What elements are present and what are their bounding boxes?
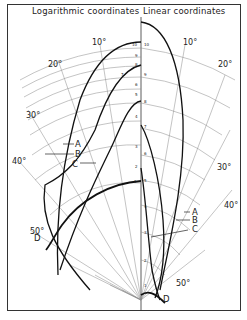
svg-text:D: D <box>163 294 170 304</box>
svg-text:30°: 30° <box>217 163 231 172</box>
svg-text:4: 4 <box>144 204 147 209</box>
curve-D-log <box>46 181 141 250</box>
svg-text:20°: 20° <box>48 60 62 69</box>
svg-text:C: C <box>72 159 78 169</box>
svg-text:40°: 40° <box>12 157 26 166</box>
svg-text:B: B <box>75 149 81 159</box>
svg-text:D: D <box>34 233 41 243</box>
svg-text:A: A <box>75 139 81 149</box>
svg-text:7: 7 <box>144 124 147 129</box>
svg-text:10: 10 <box>132 42 138 47</box>
svg-text:3: 3 <box>144 230 147 235</box>
svg-text:50°: 50° <box>176 279 190 288</box>
log-curves <box>44 42 141 290</box>
svg-text:10: 10 <box>144 42 150 47</box>
svg-text:2: 2 <box>135 164 138 169</box>
svg-text:40°: 40° <box>224 201 238 210</box>
svg-text:8: 8 <box>144 99 147 104</box>
svg-text:30°: 30° <box>26 111 40 120</box>
axis-ticks: 10 9 8 7 6 5 4 3 2 1 10 9 8 7 6 5 4 3 2 … <box>121 42 150 288</box>
curve-D-linear <box>141 293 165 303</box>
svg-text:6: 6 <box>135 82 138 87</box>
svg-text:9: 9 <box>144 72 147 77</box>
svg-text:6: 6 <box>144 151 147 156</box>
svg-text:20°: 20° <box>218 60 232 69</box>
svg-text:10°: 10° <box>183 38 197 47</box>
svg-text:5: 5 <box>135 92 138 97</box>
linear-curves <box>141 22 183 303</box>
svg-text:10°: 10° <box>92 38 106 47</box>
log-grid-radials <box>18 45 141 300</box>
svg-text:5: 5 <box>144 178 147 183</box>
linear-grid-arcs <box>141 48 235 275</box>
svg-text:4: 4 <box>135 114 138 119</box>
svg-text:C: C <box>192 224 198 234</box>
label-leaders <box>45 144 190 237</box>
curve-B-log <box>44 65 141 290</box>
svg-text:2: 2 <box>144 258 147 263</box>
polar-diagram: 10 9 8 7 6 5 4 3 2 1 10 9 8 7 6 5 4 3 2 … <box>0 0 247 320</box>
linear-grid-radials <box>141 45 232 300</box>
